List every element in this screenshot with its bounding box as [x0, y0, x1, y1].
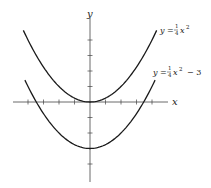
svg-text:4: 4 — [168, 72, 172, 78]
curve2-label: y = 1 4 x 2 − 3 — [152, 65, 201, 78]
y-axis-label: y — [86, 8, 93, 19]
svg-text:1: 1 — [168, 65, 172, 71]
svg-text:y =: y = — [152, 68, 167, 77]
svg-text:4: 4 — [175, 30, 179, 36]
curve1-label: y = 1 4 x 2 — [159, 23, 190, 36]
svg-text:1: 1 — [175, 23, 179, 29]
svg-text:x: x — [180, 26, 185, 35]
parabola-chart: y x y = 1 4 x 2 y = 1 4 x 2 − 3 — [0, 0, 211, 188]
svg-text:y =: y = — [159, 26, 174, 35]
svg-text:2: 2 — [179, 66, 183, 72]
x-axis-label: x — [172, 96, 178, 107]
svg-text:− 3: − 3 — [187, 68, 201, 77]
svg-text:x: x — [173, 68, 178, 77]
svg-text:2: 2 — [186, 24, 190, 30]
